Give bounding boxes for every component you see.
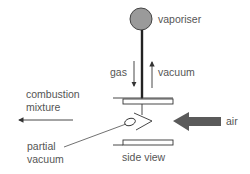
top-plate: [123, 99, 173, 104]
vaporiser-bulb: [130, 8, 152, 30]
venturi-diagram: vaporiser gas vacuum partial vacuum air …: [0, 0, 250, 174]
partial-label-2: vacuum: [27, 153, 64, 165]
combustion-label-2: mixture: [26, 101, 61, 113]
bottom-plate: [123, 140, 173, 145]
partial-vacuum-leader: [64, 124, 126, 147]
partial-label-1: partial: [27, 140, 56, 152]
vacuum-label: vacuum: [158, 66, 195, 78]
gas-label: gas: [110, 66, 127, 78]
venturi-cone: [134, 113, 152, 130]
side-view-label: side view: [122, 151, 166, 163]
combustion-label-1: combustion: [26, 88, 80, 100]
air-label: air: [226, 115, 238, 127]
air-arrow: [173, 112, 221, 131]
partial-vacuum-bubble: [124, 117, 137, 127]
vaporiser-label: vaporiser: [158, 13, 202, 25]
diagram-svg: vaporiser gas vacuum partial vacuum air …: [0, 0, 250, 174]
